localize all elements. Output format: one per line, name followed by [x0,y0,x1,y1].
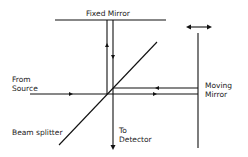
double-arrow-right-icon [207,25,212,30]
from-source-label-line2: Source [12,84,38,93]
to-detector-label-line2: Detector [119,135,152,144]
to-detector-label-line1: To [119,126,127,135]
arrow-down-detector-icon [111,145,116,150]
arrow-right-icon [153,92,157,96]
moving-mirror-label-line2: Mirror [205,90,227,99]
arrow-left-icon [155,86,159,90]
fixed-mirror-label: Fixed Mirror [86,9,130,18]
from-source-label-line1: From [12,75,31,84]
double-arrow-left-icon [186,25,191,30]
arrow-down-icon [111,55,115,59]
beam-splitter-label: Beam splitter [12,128,62,137]
moving-mirror-label-line1: Moving [205,81,232,90]
arrow-right-icon [69,92,73,96]
arrow-up-icon [105,43,109,47]
